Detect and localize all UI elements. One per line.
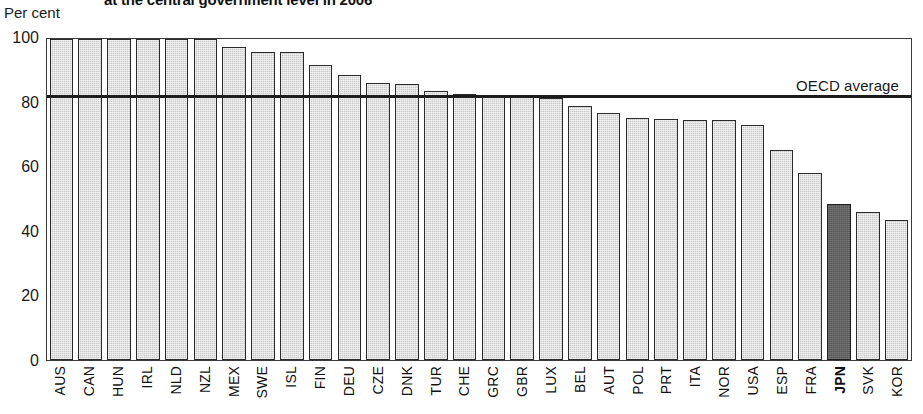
x-label-slot: POL [623,363,652,414]
bar-irl[interactable] [136,39,160,360]
x-tick-label-swe: SWE [254,366,270,399]
bar-slot [537,39,566,360]
x-tick-label-usa: USA [745,366,761,395]
bar-prt[interactable] [654,119,678,360]
x-label-slot: FIN [306,363,335,414]
bar-svk[interactable] [856,212,880,360]
bar-slot [565,39,594,360]
plot-inner: OECD average [47,39,911,360]
x-tick-label-isl: ISL [283,366,299,388]
bar-tur[interactable] [424,91,448,360]
x-label-slot: GBR [508,363,537,414]
x-label-slot: KOR [883,363,912,414]
y-tick-label-20: 20 [21,287,39,305]
bar-cze[interactable] [366,83,390,360]
x-label-slot: CHE [450,363,479,414]
bar-slot [738,39,767,360]
bar-slot [767,39,796,360]
x-tick-label-pol: POL [630,366,646,395]
bar-esp[interactable] [770,150,794,360]
x-label-slot: BEL [565,363,594,414]
bar-slot [277,39,306,360]
bar-aus[interactable] [50,39,74,360]
bar-dnk[interactable] [395,84,419,360]
x-label-slot: ITA [681,363,710,414]
bar-nor[interactable] [712,120,736,360]
x-tick-label-aus: AUS [52,366,68,395]
x-label-slot: HUN [104,363,133,414]
bar-slot [364,39,393,360]
bar-slot [623,39,652,360]
x-label-slot: MEX [219,363,248,414]
bar-slot [652,39,681,360]
bar-hun[interactable] [107,39,131,360]
x-label-slot: GRC [479,363,508,414]
bar-jpn[interactable] [827,204,851,360]
x-label-slot: AUS [46,363,75,414]
bar-bel[interactable] [568,106,592,360]
y-tick-label-100: 100 [12,29,39,47]
x-label-slot: SWE [248,363,277,414]
bar-gbr[interactable] [510,96,534,360]
x-tick-label-jpn: JPN [832,366,848,394]
y-tick-label-0: 0 [30,352,39,370]
x-tick-label-deu: DEU [341,366,357,396]
x-label-slot: NZL [190,363,219,414]
x-label-slot: NOR [710,363,739,414]
bar-slot [709,39,738,360]
x-label-slot: AUT [594,363,623,414]
bar-slot [508,39,537,360]
bar-slot [594,39,623,360]
x-tick-label-irl: IRL [139,366,155,388]
x-tick-label-nld: NLD [168,366,184,395]
x-tick-label-kor: KOR [889,366,905,397]
bar-slot [162,39,191,360]
bar-slot [681,39,710,360]
bar-nld[interactable] [165,39,189,360]
bar-nzl[interactable] [194,39,218,360]
x-label-slot: FRA [796,363,825,414]
x-tick-label-fra: FRA [803,366,819,395]
x-tick-label-ita: ITA [687,366,703,387]
bar-slot [191,39,220,360]
x-tick-label-prt: PRT [658,366,674,394]
bar-pol[interactable] [626,118,650,360]
x-tick-label-cze: CZE [370,366,386,395]
bar-series [47,39,911,360]
bar-aut[interactable] [597,113,621,360]
bar-deu[interactable] [338,75,362,360]
x-label-slot: USA [739,363,768,414]
bar-usa[interactable] [741,125,765,360]
x-tick-label-lux: LUX [543,366,559,394]
bar-slot [105,39,134,360]
bar-slot [393,39,422,360]
x-label-slot: ESP [767,363,796,414]
bar-isl[interactable] [280,52,304,360]
bar-slot [249,39,278,360]
x-tick-label-nzl: NZL [197,366,213,393]
bar-kor[interactable] [885,220,909,360]
x-tick-label-esp: ESP [774,366,790,395]
plot-area: OECD average [46,38,912,361]
x-label-slot: DNK [392,363,421,414]
x-label-slot: CAN [75,363,104,414]
x-label-slot: LUX [537,363,566,414]
y-tick-label-40: 40 [21,223,39,241]
bar-lux[interactable] [539,98,563,360]
chart-title: at the central government level in 2006 [104,0,372,8]
x-tick-label-can: CAN [81,366,97,396]
bar-che[interactable] [453,94,477,360]
bar-swe[interactable] [251,52,275,360]
y-tick-label-60: 60 [21,158,39,176]
x-tick-label-che: CHE [456,366,472,396]
x-label-slot: ISL [277,363,306,414]
bar-ita[interactable] [683,120,707,360]
bar-can[interactable] [78,39,102,360]
x-tick-label-nor: NOR [716,366,732,398]
bar-mex[interactable] [222,47,246,360]
bar-grc[interactable] [482,95,506,360]
bar-fra[interactable] [798,173,822,360]
bar-fin[interactable] [309,65,333,360]
bar-slot [76,39,105,360]
bar-slot [335,39,364,360]
